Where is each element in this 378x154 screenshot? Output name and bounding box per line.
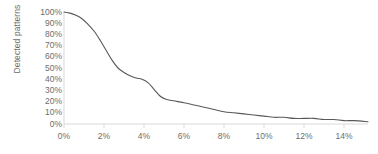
plot-area: [0, 0, 378, 154]
chart-svg: [0, 0, 378, 154]
x-axis-tick-marks: [64, 124, 344, 128]
chart-container: Detected patterns 100%90%80%70%60%50%40%…: [0, 0, 378, 154]
data-series-line: [64, 12, 368, 122]
